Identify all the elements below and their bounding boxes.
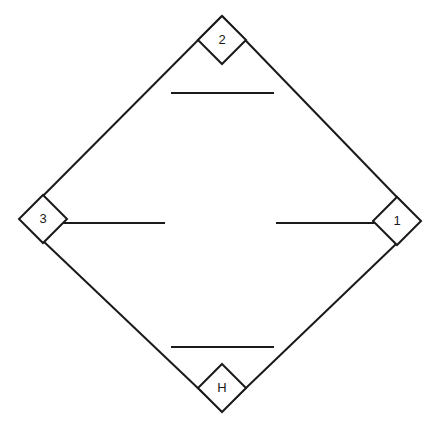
node-h-shape[interactable] xyxy=(198,364,246,412)
edge-top-to-right xyxy=(222,16,420,221)
node-1-shape[interactable] xyxy=(373,197,421,245)
node-3[interactable]: 3 xyxy=(19,195,67,243)
node-3-shape[interactable] xyxy=(19,195,67,243)
node-2-shape[interactable] xyxy=(198,16,246,64)
edge-left-to-top xyxy=(20,16,222,219)
diamond-diagram: 2 1 H 3 xyxy=(0,0,435,424)
node-h[interactable]: H xyxy=(198,364,246,412)
node-2[interactable]: 2 xyxy=(198,16,246,64)
outer-diamond-outline xyxy=(20,16,420,411)
edge-bottom-to-left xyxy=(20,219,222,411)
blank-lines-group xyxy=(56,93,380,347)
node-1[interactable]: 1 xyxy=(373,197,421,245)
edge-right-to-bottom xyxy=(222,221,420,411)
diagram-canvas: · · · · · · 2 1 H xyxy=(0,0,435,424)
